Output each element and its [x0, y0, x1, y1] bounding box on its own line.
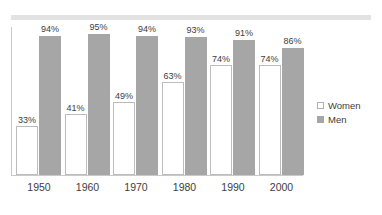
bar-value-label: 63%: [163, 71, 181, 81]
x-axis-tick-label: 2000: [259, 180, 305, 194]
x-axis-tick-label: 1970: [113, 180, 159, 194]
legend-label-women: Women: [328, 100, 361, 111]
legend-label-men: Men: [328, 114, 346, 125]
bars-layer: 33%94%41%95%49%94%63%93%74%91%74%86%: [12, 27, 303, 175]
bar-value-label: 93%: [186, 25, 204, 35]
bar-value-label: 94%: [41, 24, 59, 34]
bar-women[interactable]: 33%: [16, 126, 38, 175]
bar-group: 74%86%: [259, 27, 305, 175]
bar-chart: 33%94%41%95%49%94%63%93%74%91%74%86% 195…: [0, 0, 382, 215]
bar-men[interactable]: 91%: [233, 40, 255, 175]
bar-group: 41%95%: [65, 27, 111, 175]
bar-group: 33%94%: [16, 27, 62, 175]
bar-value-label: 91%: [235, 28, 253, 38]
legend-item-men[interactable]: Men: [317, 113, 377, 125]
bar-value-label: 33%: [18, 115, 36, 125]
bar-value-label: 74%: [260, 54, 278, 64]
bar-value-label: 49%: [115, 91, 133, 101]
bar-men[interactable]: 95%: [88, 34, 110, 175]
bar-men[interactable]: 94%: [39, 36, 61, 175]
x-axis: 195019601970198019902000: [12, 180, 303, 198]
x-axis-tick-label: 1950: [16, 180, 62, 194]
bar-value-label: 86%: [283, 36, 301, 46]
bar-women[interactable]: 41%: [65, 114, 87, 175]
chart-legend: Women Men: [317, 99, 377, 127]
bar-value-label: 94%: [138, 24, 156, 34]
bar-value-label: 41%: [66, 103, 84, 113]
bar-value-label: 74%: [212, 54, 230, 64]
women-swatch-icon: [317, 102, 324, 109]
bar-men[interactable]: 93%: [185, 37, 207, 175]
legend-item-women[interactable]: Women: [317, 99, 377, 111]
top-decorative-band: [11, 15, 371, 20]
bar-women[interactable]: 74%: [210, 65, 232, 175]
bar-value-label: 95%: [89, 22, 107, 32]
bar-men[interactable]: 94%: [136, 36, 158, 175]
bar-men[interactable]: 86%: [282, 48, 304, 175]
bar-group: 74%91%: [210, 27, 256, 175]
bar-group: 49%94%: [113, 27, 159, 175]
x-axis-tick-label: 1980: [162, 180, 208, 194]
x-axis-tick-label: 1990: [210, 180, 256, 194]
x-axis-tick-label: 1960: [65, 180, 111, 194]
bar-women[interactable]: 49%: [113, 102, 135, 175]
bar-women[interactable]: 74%: [259, 65, 281, 175]
bar-group: 63%93%: [162, 27, 208, 175]
men-swatch-icon: [317, 116, 324, 123]
bar-women[interactable]: 63%: [162, 82, 184, 175]
